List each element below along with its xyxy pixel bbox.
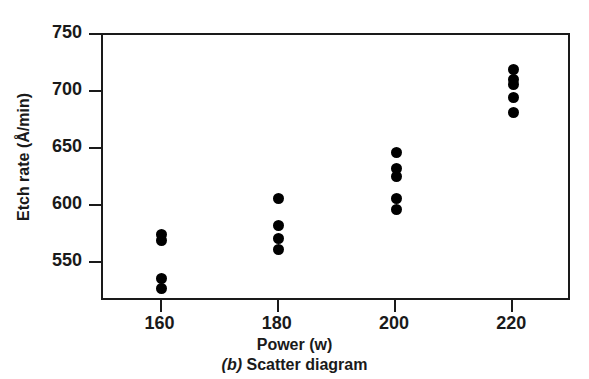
data-point [391,147,402,158]
data-point [273,233,284,244]
data-point [508,79,519,90]
data-point [273,244,284,255]
x-tick-mark [160,299,162,312]
data-point [273,220,284,231]
x-tick-mark [394,299,396,312]
data-point [156,273,167,284]
y-tick-label: 600 [22,193,82,214]
y-tick-label: 750 [22,22,82,43]
data-point [391,204,402,215]
data-point [508,107,519,118]
x-axis-title: Power (w) [0,336,589,354]
x-tick-label: 180 [237,313,317,334]
data-point [156,235,167,246]
data-point [391,171,402,182]
data-point [156,283,167,294]
y-tick-label: 650 [22,136,82,157]
figure-caption: (b) Scatter diagram [0,356,589,374]
data-point [273,193,284,204]
caption-text: Scatter diagram [242,356,367,373]
y-tick-label: 550 [22,250,82,271]
x-tick-label: 200 [354,313,434,334]
data-point [508,92,519,103]
x-tick-label: 160 [120,313,200,334]
plot-area [101,33,570,300]
y-tick-label: 700 [22,79,82,100]
caption-letter: (b) [222,356,242,373]
x-tick-mark [511,299,513,312]
x-tick-label: 220 [471,313,551,334]
scatter-diagram-figure: Etch rate (Å/min) 550600650700750 160180… [0,0,589,379]
data-point [391,193,402,204]
x-tick-mark [277,299,279,312]
